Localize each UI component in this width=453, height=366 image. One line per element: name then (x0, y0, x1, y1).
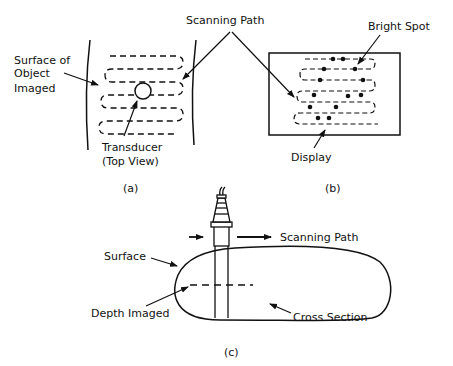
panel-a-caption: (a) (123, 182, 138, 195)
display-scan-path (294, 59, 378, 124)
scanning-path-arrow-a (183, 32, 230, 79)
transducer-probe (211, 187, 232, 318)
panel-c: Scanning Path Surface Depth Imaged Cross… (91, 187, 391, 359)
panel-b-caption: (b) (325, 182, 341, 195)
scanning-path-arrow-b (232, 32, 294, 97)
transducer-circle (135, 83, 151, 99)
surface-boundary-left (86, 40, 90, 150)
depth-imaged-arrow (146, 287, 188, 306)
display-screen (269, 53, 400, 135)
bright-spot-label: Bright Spot (368, 20, 431, 33)
bright-spots (308, 57, 366, 121)
panel-b: Bright Spot Display (b) (269, 20, 431, 195)
surface-arrow (64, 73, 98, 85)
surface-label: Surface of (14, 54, 71, 67)
bright-spot-arrow (358, 35, 380, 64)
scanning-path-label-c: Scanning Path (280, 231, 358, 244)
depth-imaged-label: Depth Imaged (91, 307, 169, 320)
cross-section-arrow (270, 304, 291, 313)
panel-c-caption: (c) (224, 346, 239, 359)
surface-label: Imaged (14, 82, 55, 95)
surface-label-c: Surface (104, 250, 146, 263)
surface-boundary-right (192, 40, 196, 145)
surface-arrow-c (151, 258, 177, 266)
panel-a: Surface of Object Imaged Transducer (Top… (14, 40, 196, 195)
transducer-label: Transducer (101, 141, 163, 154)
transducer-arrow (124, 101, 137, 136)
display-arrow (314, 130, 325, 148)
cross-section-label: Cross Section (293, 311, 368, 324)
display-label: Display (291, 151, 332, 164)
surface-label: Object (14, 67, 51, 80)
transducer-label: (Top View) (102, 155, 159, 168)
scanning-path-label: Scanning Path (186, 14, 264, 27)
